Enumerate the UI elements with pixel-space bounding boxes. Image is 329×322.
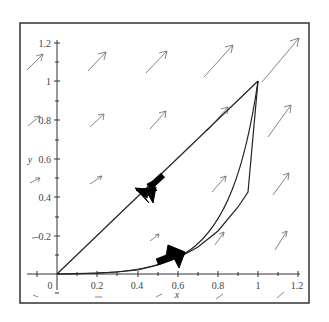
- y-tick-0.4: 0.4: [39, 192, 52, 203]
- x-tick-1.2: 1.2: [291, 280, 304, 291]
- field-arrow-icon: [215, 232, 224, 245]
- y-tick-0.6: 0.6: [39, 154, 52, 165]
- field-arrow-icon: [156, 294, 162, 297]
- field-arrow-icon: [268, 105, 291, 137]
- field-arrow-icon: [146, 51, 167, 73]
- y-tick-1: 1: [46, 76, 51, 87]
- field-arrow-icon: [216, 294, 223, 299]
- field-arrow-icon: [150, 234, 159, 241]
- field-arrow-icon: [273, 173, 289, 195]
- field-arrow-icon: [33, 295, 38, 297]
- x-tick-0.4: 0.4: [131, 280, 144, 291]
- x-tick-0.8: 0.8: [212, 280, 225, 291]
- x-axis-label: x: [174, 289, 180, 300]
- field-arrow-icon: [262, 38, 299, 82]
- field-arrow-icon: [212, 176, 226, 192]
- x-tick-0: 0: [48, 280, 53, 291]
- y-axis-label: y: [27, 154, 33, 165]
- direction-arrow-icon: [135, 175, 163, 203]
- y-tick-1.2: 1.2: [39, 38, 52, 49]
- field-arrow-icon: [204, 45, 233, 77]
- y-tick-0.8: 0.8: [39, 115, 52, 126]
- field-arrow-icon: [30, 178, 40, 183]
- vector-field-plot: 0 0.2 0.4 0.6 0.8 1 1.2 x 1.2 1 0.8 0.6 …: [0, 0, 329, 322]
- field-arrow-icon: [27, 54, 43, 70]
- direction-arrow-icon: [157, 245, 185, 268]
- x-tick-1: 1: [256, 280, 261, 291]
- field-arrow-icon: [90, 176, 102, 184]
- field-arrow-icon: [88, 52, 106, 71]
- y-tick-0.2: 0.2: [39, 231, 52, 242]
- x-tick-0.2: 0.2: [91, 280, 104, 291]
- field-arrow-icon: [90, 114, 104, 127]
- field-arrow-icon: [277, 292, 284, 298]
- field-arrow-icon: [150, 111, 166, 129]
- field-arrow-icon: [275, 231, 287, 250]
- y-tick-labels: 1.2 1 0.8 0.6 0.4 0.2: [39, 38, 52, 242]
